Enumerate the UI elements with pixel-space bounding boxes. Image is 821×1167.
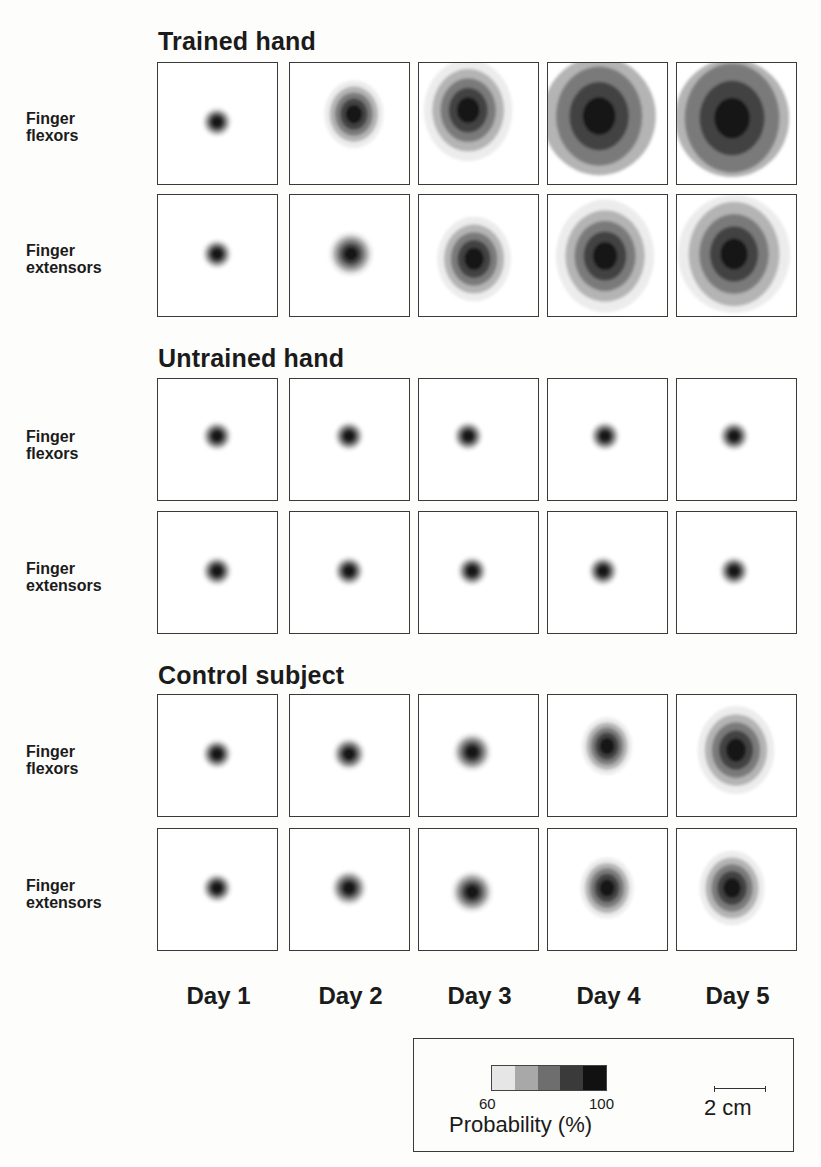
- section-title-control-subject: Control subject: [158, 661, 344, 690]
- row-label-flexors: Fingerflexors: [26, 743, 78, 777]
- heatmap-panel: [289, 828, 410, 951]
- heatmap-panel: [418, 378, 539, 501]
- row-label-flexors: Fingerflexors: [26, 110, 78, 144]
- heatmap-panel: [289, 194, 410, 317]
- colorbar-min-label: 60: [479, 1095, 496, 1112]
- heatmap-panel: [289, 378, 410, 501]
- scale-bar-label: 2 cm: [704, 1095, 752, 1121]
- day-label-5: Day 5: [676, 982, 799, 1010]
- heatmap-panel: [289, 511, 410, 634]
- heatmap-panel: [547, 378, 668, 501]
- legend-box: 60 100 Probability (%) 2 cm: [413, 1038, 794, 1152]
- day-label-3: Day 3: [418, 982, 541, 1010]
- colorbar-step: [538, 1066, 561, 1090]
- colorbar-title: Probability (%): [449, 1112, 592, 1138]
- heatmap-panel: [676, 828, 797, 951]
- heatmap-panel: [157, 378, 278, 501]
- heatmap-panel: [289, 694, 410, 817]
- row-label-extensors: Fingerextensors: [26, 877, 102, 911]
- heatmap-panel: [418, 694, 539, 817]
- heatmap-panel: [547, 62, 668, 185]
- heatmap-panel: [547, 694, 668, 817]
- heatmap-panel: [418, 828, 539, 951]
- heatmap-panel: [676, 194, 797, 317]
- heatmap-panel: [676, 511, 797, 634]
- heatmap-panel: [547, 828, 668, 951]
- heatmap-panel: [418, 511, 539, 634]
- heatmap-panel: [547, 511, 668, 634]
- heatmap-panel: [418, 62, 539, 185]
- row-label-flexors: Fingerflexors: [26, 428, 78, 462]
- row-label-extensors: Fingerextensors: [26, 242, 102, 276]
- heatmap-panel: [676, 62, 797, 185]
- row-label-extensors: Fingerextensors: [26, 560, 102, 594]
- heatmap-panel: [157, 62, 278, 185]
- day-label-1: Day 1: [157, 982, 280, 1010]
- heatmap-panel: [418, 194, 539, 317]
- heatmap-panel: [289, 62, 410, 185]
- heatmap-panel: [157, 828, 278, 951]
- day-label-4: Day 4: [547, 982, 670, 1010]
- heatmap-panel: [157, 511, 278, 634]
- probability-colorbar: [491, 1065, 607, 1091]
- section-title-trained-hand: Trained hand: [158, 27, 316, 56]
- colorbar-step: [515, 1066, 538, 1090]
- scale-bar-icon: [714, 1086, 766, 1092]
- colorbar-step: [560, 1066, 583, 1090]
- day-label-2: Day 2: [289, 982, 412, 1010]
- section-title-untrained-hand: Untrained hand: [158, 344, 344, 373]
- heatmap-panel: [547, 194, 668, 317]
- heatmap-panel: [676, 694, 797, 817]
- heatmap-panel: [157, 694, 278, 817]
- heatmap-panel: [676, 378, 797, 501]
- colorbar-step: [492, 1066, 515, 1090]
- colorbar-max-label: 100: [589, 1095, 614, 1112]
- heatmap-panel: [157, 194, 278, 317]
- colorbar-step: [583, 1066, 606, 1090]
